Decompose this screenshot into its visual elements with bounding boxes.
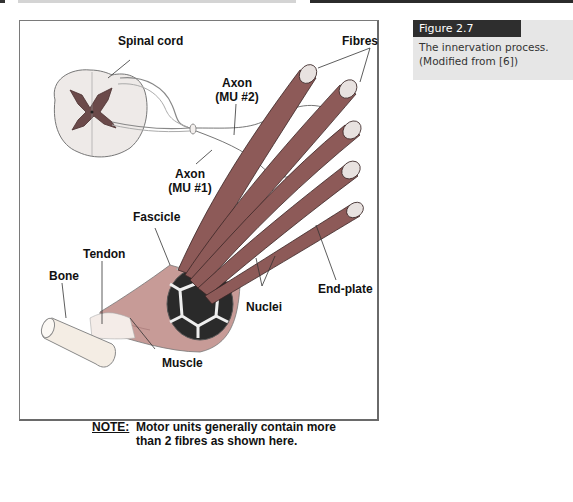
label-muscle: Muscle: [162, 356, 203, 370]
label-tendon: Tendon: [83, 247, 125, 261]
label-end-plate: End-plate: [318, 282, 373, 296]
label-fibres: Fibres: [342, 34, 378, 48]
label-axon-mu1-line1: Axon: [168, 167, 212, 181]
caption-text: The innervation process. (Modified from …: [419, 40, 549, 68]
note-label: NOTE:: [92, 420, 136, 434]
figure-caption: Figure 2.7 The innervation process. (Mod…: [413, 20, 573, 80]
label-bone: Bone: [49, 269, 79, 283]
label-axon-mu2-line1: Axon: [215, 76, 259, 90]
caption-title: Figure 2.7: [413, 20, 521, 37]
caption-line1: The innervation process.: [419, 40, 549, 54]
caption-line2: (Modified from [6]): [419, 54, 549, 68]
label-axon-mu2: Axon (MU #2): [215, 76, 259, 104]
label-axon-mu1-line2: (MU #1): [168, 181, 212, 195]
label-spinal-cord: Spinal cord: [118, 34, 183, 48]
spinal-cord-illustration: [54, 70, 196, 157]
note-line1: Motor units generally contain more: [136, 420, 336, 434]
label-fascicle: Fascicle: [133, 210, 180, 224]
label-axon-mu2-line2: (MU #2): [215, 90, 259, 104]
figure-note: NOTE:Motor units generally contain more …: [92, 420, 336, 448]
label-axon-mu1: Axon (MU #1): [168, 167, 212, 195]
note-line2: than 2 fibres as shown here.: [92, 434, 336, 448]
label-nuclei: Nuclei: [246, 300, 282, 314]
